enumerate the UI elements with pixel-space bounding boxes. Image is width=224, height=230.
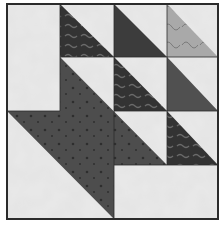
quilt-block	[0, 0, 224, 230]
